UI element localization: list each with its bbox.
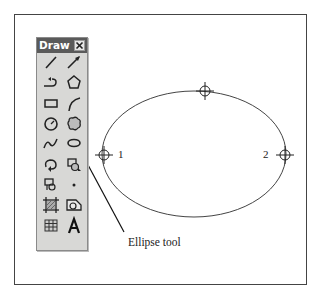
crosshair-marker-top: [196, 82, 214, 100]
revcloud-icon: [40, 155, 62, 174]
text-tool-button[interactable]: [63, 216, 85, 235]
hatch-tool-button[interactable]: [40, 195, 62, 214]
arrow-icon: [63, 53, 85, 72]
line-icon: [40, 53, 62, 72]
drawn-ellipse: [102, 91, 286, 217]
line-tool-button[interactable]: [40, 53, 62, 72]
toolbar-title: Draw: [39, 39, 70, 52]
spline-tool-button[interactable]: [40, 134, 62, 153]
arrow-tool-button[interactable]: [63, 53, 85, 72]
crosshair-marker-2: [276, 146, 294, 164]
rectangle-icon: [40, 94, 62, 113]
point-icon: [63, 175, 85, 194]
close-x-icon: [75, 41, 84, 50]
connector-tool-button[interactable]: [40, 73, 62, 92]
toolbar-titlebar[interactable]: Draw: [37, 38, 87, 53]
crosshair-marker-1: [95, 146, 113, 164]
close-button[interactable]: [74, 40, 85, 51]
draw-toolbar[interactable]: Draw: [36, 37, 88, 251]
pentagon-icon: [63, 73, 85, 92]
point-label-1: 1: [118, 148, 124, 160]
circle-icon: [40, 114, 62, 133]
polygon-tool-button[interactable]: [63, 73, 85, 92]
arc-tool-button[interactable]: [63, 94, 85, 113]
arc-icon: [63, 94, 85, 113]
make-block-icon: [40, 175, 62, 194]
insert-block-tool-button[interactable]: [63, 155, 85, 174]
ellipse-icon: [63, 134, 85, 153]
table-tool-button[interactable]: [40, 216, 62, 235]
insert-block-icon: [63, 155, 85, 174]
cloud-icon: [63, 114, 85, 133]
make-block-tool-button[interactable]: [40, 175, 62, 194]
hatch-icon: [40, 195, 62, 214]
point-label-2: 2: [263, 148, 269, 160]
text-A-icon: [63, 216, 85, 235]
revision-cloud-tool-button[interactable]: [40, 155, 62, 174]
ellipse-tool-button[interactable]: [63, 134, 85, 153]
spline-icon: [40, 134, 62, 153]
rectangle-tool-button[interactable]: [40, 94, 62, 113]
connector-icon: [40, 73, 62, 92]
region-icon: [63, 195, 85, 214]
ellipse-tool-callout: Ellipse tool: [128, 236, 181, 248]
cloud-tool-button[interactable]: [63, 114, 85, 133]
region-tool-button[interactable]: [63, 195, 85, 214]
table-icon: [40, 216, 62, 235]
circle-tool-button[interactable]: [40, 114, 62, 133]
point-tool-button[interactable]: [63, 175, 85, 194]
